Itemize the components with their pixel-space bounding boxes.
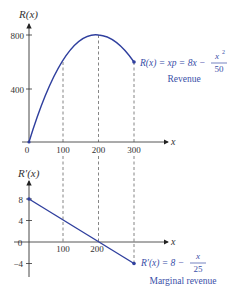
y-axis-label: R(x) bbox=[18, 8, 38, 21]
revenue-charts: R(x) 800 400 0 100 200 300 x R(x) = xp =… bbox=[0, 0, 241, 296]
revenue-eq-numerator: x bbox=[214, 51, 219, 61]
x-tick-100: 100 bbox=[56, 145, 70, 155]
marginal-eq-numerator: x bbox=[195, 251, 200, 261]
y-axis-label: R′(x) bbox=[17, 167, 40, 180]
marginal-eq-denominator: 25 bbox=[194, 264, 204, 274]
marginal-revenue-caption: Marginal revenue bbox=[149, 276, 216, 286]
x-axis-label: x bbox=[170, 236, 176, 247]
revenue-chart: R(x) 800 400 0 100 200 300 x R(x) = xp =… bbox=[11, 8, 228, 155]
x-axis-label: x bbox=[170, 136, 176, 147]
endpoint-dot bbox=[27, 140, 30, 143]
endpoint-dot bbox=[27, 197, 31, 201]
x-tick-0: 0 bbox=[25, 145, 30, 155]
marginal-revenue-chart: R′(x) 8 4 −4 0 100 200 x R′(x) = 8 − x 2… bbox=[13, 156, 216, 286]
marginal-revenue-line bbox=[29, 199, 134, 264]
revenue-eq-denominator: 50 bbox=[215, 64, 225, 74]
y-tick-4: 4 bbox=[19, 216, 24, 226]
x-tick-100: 100 bbox=[56, 244, 70, 254]
revenue-caption: Revenue bbox=[167, 74, 200, 84]
x-tick-200: 200 bbox=[90, 244, 104, 254]
x-tick-300: 300 bbox=[127, 145, 141, 155]
revenue-curve bbox=[29, 35, 134, 142]
x-tick-200: 200 bbox=[92, 145, 106, 155]
revenue-equation: R(x) = xp = 8x − bbox=[139, 58, 205, 69]
y-tick-400: 400 bbox=[11, 85, 25, 95]
revenue-eq-exponent: 2 bbox=[222, 49, 225, 55]
x-tick-0: 0 bbox=[18, 238, 23, 248]
y-tick-800: 800 bbox=[11, 31, 25, 41]
y-tick-neg4: −4 bbox=[13, 259, 23, 269]
endpoint-dot bbox=[132, 262, 136, 266]
y-tick-8: 8 bbox=[19, 195, 24, 205]
dashed-guides bbox=[63, 35, 134, 142]
endpoint-dot bbox=[132, 60, 136, 64]
marginal-revenue-equation: R′(x) = 8 − bbox=[140, 258, 184, 269]
